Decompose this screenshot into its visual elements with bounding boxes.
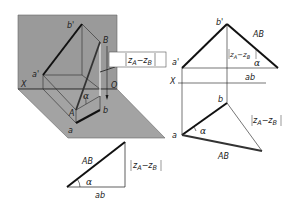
ortho-label-AB-top: AB (217, 152, 229, 161)
triangle-label-alpha: α (86, 177, 92, 187)
ortho-label-b: b (218, 95, 223, 104)
svg-text:zA−zB: zA−zB (132, 161, 158, 172)
label-a: a (68, 126, 73, 135)
right-triangle: AB α ab zA−zB (67, 142, 161, 200)
ortho-label-ab-front: ab (245, 73, 255, 82)
label-alpha: α (83, 91, 89, 101)
ortho-label-alpha-top: α (200, 126, 206, 136)
triangle-hypotenuse (67, 142, 125, 187)
label-A: A (68, 109, 74, 118)
label-b-prime: b' (67, 21, 74, 30)
ortho-label-b-prime: b' (216, 18, 223, 27)
label-O: O (111, 81, 117, 90)
svg-text:zA−zB: zA−zB (252, 116, 278, 127)
ortho-label-a-prime: a' (172, 58, 179, 67)
ortho-label-alpha-front: α (254, 58, 260, 68)
label-a-prime: a' (32, 70, 39, 79)
pictorial-view: b' a' B A a b X O α zA−zB (18, 15, 166, 138)
label-b: b (103, 106, 108, 115)
triangle-label-AB: AB (81, 157, 93, 166)
ortho-front-height-label: zA−zB (229, 49, 256, 60)
triangle-label-height: zA−zB (131, 160, 161, 172)
ortho-top-height-label: zA−zB (252, 115, 281, 127)
label-B: B (103, 36, 109, 45)
triangle-label-ab: ab (95, 191, 105, 200)
ortho-label-AB-front: AB (252, 30, 264, 39)
ortho-label-a: a (172, 131, 177, 140)
svg-text:zA−zB: zA−zB (229, 51, 251, 60)
orthographic-view: b' AB a' α ab X b a α AB zA−zB zA−zB (169, 18, 281, 161)
front-segment-a-prime-b-prime (182, 24, 227, 68)
height-difference-callout: zA−zB (109, 52, 166, 67)
label-X: X (20, 80, 27, 89)
top-height-line (227, 103, 262, 151)
projection-diagram: b' a' B A a b X O α zA−zB AB α ab (0, 0, 294, 211)
top-true-length (182, 135, 262, 151)
ortho-label-X: X (169, 77, 176, 86)
